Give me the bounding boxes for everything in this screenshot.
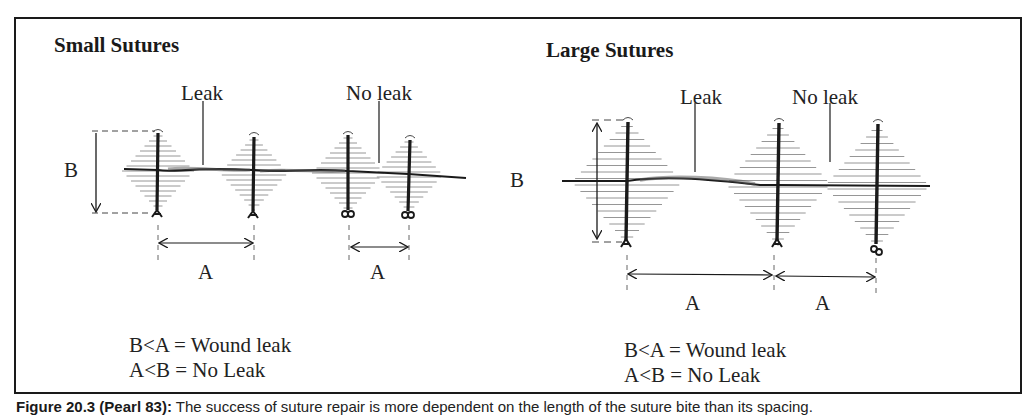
dimension-a-large-left: A: [685, 291, 700, 316]
dimension-a-large-right: A: [815, 291, 830, 316]
small-sutures-art: [92, 101, 466, 262]
leak-label-large: Leak: [680, 85, 722, 110]
panel-title-large-sutures: Large Sutures: [546, 38, 673, 63]
leak-label-small: Leak: [181, 81, 223, 106]
dimension-b-small: B: [64, 158, 78, 183]
no-leak-label-small: No leak: [346, 81, 412, 106]
panel-title-small-sutures: Small Sutures: [54, 33, 179, 58]
figure-caption: Figure 20.3 (Pearl 83): The success of s…: [16, 398, 813, 415]
rule-large-wound-leak: B<A = Wound leak: [624, 337, 786, 363]
rule-small-wound-leak: B<A = Wound leak: [129, 332, 291, 358]
figure-caption-label: Figure 20.3 (Pearl 83):: [16, 398, 172, 415]
rule-large-no-leak: A<B = No Leak: [624, 362, 760, 388]
rule-small-no-leak: A<B = No Leak: [129, 357, 265, 383]
dimension-a-small-left: A: [198, 260, 213, 285]
large-sutures-art: [562, 103, 930, 294]
no-leak-label-large: No leak: [792, 85, 858, 110]
dimension-b-large: B: [510, 168, 524, 193]
dimension-a-small-right: A: [370, 260, 385, 285]
figure-caption-text: The success of suture repair is more dep…: [176, 398, 813, 415]
